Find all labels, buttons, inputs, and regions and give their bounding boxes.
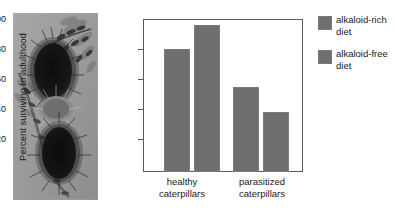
legend-label-alkaloid-free-line2: diet [336, 60, 395, 72]
chart-legend: alkaloid-rich diet alkaloid-free diet [318, 14, 395, 82]
legend-label-alkaloid-free-line1: alkaloid-free [336, 48, 395, 60]
x-group-label-parasitized-line1: parasitized [218, 176, 306, 188]
y-tick-label-100: 100 [0, 15, 6, 24]
x-group-label-healthy-line2: caterpillars [143, 188, 221, 200]
legend-label-alkaloid-rich-line2: diet [336, 26, 395, 38]
y-axis-title: Percent surviving to adulthood [18, 12, 28, 182]
bar-chart: Percent surviving to adulthood 100 80 60… [0, 0, 310, 213]
legend-swatch-alkaloid-rich [318, 16, 332, 30]
x-group-label-healthy: healthy caterpillars [143, 176, 221, 199]
bar-healthy-alkaloid-rich [164, 49, 190, 172]
x-group-label-parasitized-line2: caterpillars [218, 188, 306, 200]
legend-label-alkaloid-rich-line1: alkaloid-rich [336, 14, 395, 26]
y-tick-label-20: 20 [0, 135, 6, 144]
bar-healthy-alkaloid-free [194, 25, 220, 172]
legend-item-alkaloid-free: alkaloid-free diet [318, 48, 395, 73]
plot-area [143, 19, 303, 172]
legend-item-alkaloid-rich: alkaloid-rich diet [318, 14, 395, 39]
bar-parasitized-alkaloid-rich [233, 87, 259, 173]
y-tick-label-80: 80 [0, 45, 6, 54]
y-tick-label-40: 40 [0, 105, 6, 114]
x-group-label-healthy-line1: healthy [143, 176, 221, 188]
legend-swatch-alkaloid-free [318, 50, 332, 64]
y-tick-label-60: 60 [0, 75, 6, 84]
x-group-label-parasitized: parasitized caterpillars [218, 176, 306, 199]
figure-root: Percent surviving to adulthood 100 80 60… [0, 0, 395, 213]
bar-parasitized-alkaloid-free [263, 112, 289, 172]
